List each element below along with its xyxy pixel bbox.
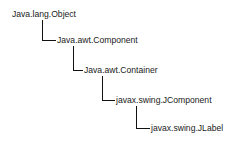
- connector-component-container-horizontal: [73, 70, 83, 71]
- connector-container-jcomponent-horizontal: [102, 100, 115, 101]
- node-javax-swing-jlabel: javax.swing.JLabel: [151, 123, 223, 133]
- connector-object-component-vertical: [42, 20, 43, 41]
- node-javax-swing-jcomponent: javax.swing.JComponent: [116, 95, 212, 105]
- node-java-lang-object: Java.lang.Object: [12, 9, 76, 19]
- connector-jcomponent-jlabel-vertical: [136, 106, 137, 129]
- connector-component-container-vertical: [73, 46, 74, 71]
- connector-object-component-horizontal: [42, 40, 56, 41]
- node-java-awt-container: Java.awt.Container: [84, 65, 158, 75]
- node-java-awt-component: Java.awt.Component: [57, 35, 138, 45]
- connector-jcomponent-jlabel-horizontal: [136, 128, 150, 129]
- connector-container-jcomponent-vertical: [102, 76, 103, 101]
